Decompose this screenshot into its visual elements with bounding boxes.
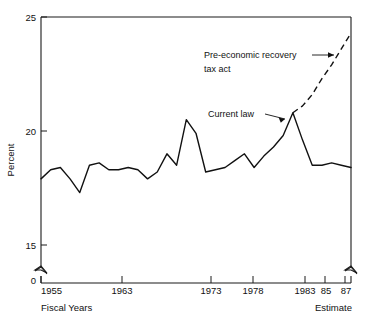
- y-axis-zero-label: 0: [31, 275, 36, 286]
- annotation-pre-act-line2: tax act: [204, 64, 231, 74]
- annotation-current-law: Current law: [208, 109, 285, 123]
- series-pre-economic-recovery-tax-act: [293, 33, 351, 113]
- line-chart-figure: 25 20 15 0 Percent 1955 1963 1973 1978 1…: [0, 0, 372, 322]
- x-tick-label-87: 87: [341, 285, 352, 296]
- series-current-law: [41, 113, 351, 193]
- annotation-pre-act-line1: Pre-economic recovery: [204, 50, 297, 60]
- y-axis-ticks: [41, 17, 47, 245]
- annotation-pre-act: Pre-economic recovery tax act: [204, 50, 334, 74]
- y-axis-title: Percent: [5, 143, 16, 176]
- chart-container: 25 20 15 0 Percent 1955 1963 1973 1978 1…: [0, 0, 372, 322]
- x-tick-label-1973: 1973: [200, 285, 221, 296]
- annotation-current-law-label: Current law: [208, 109, 255, 119]
- axis-break-left: [35, 266, 47, 274]
- plot-frame: [41, 17, 351, 268]
- annotation-pre-act-arrowhead: [328, 52, 334, 58]
- x-tick-label-1978: 1978: [242, 285, 263, 296]
- y-tick-label-25: 25: [25, 12, 36, 23]
- estimate-caption: Estimate: [315, 302, 352, 313]
- x-tick-label-1983: 1983: [294, 285, 315, 296]
- x-axis-ticks: [41, 276, 345, 283]
- axis-break-right: [345, 266, 357, 274]
- x-tick-label-1955: 1955: [41, 285, 62, 296]
- y-tick-label-20: 20: [25, 126, 36, 137]
- y-tick-label-15: 15: [25, 240, 36, 251]
- x-tick-label-1963: 1963: [111, 285, 132, 296]
- x-tick-label-85: 85: [321, 285, 332, 296]
- x-axis-title: Fiscal Years: [41, 302, 92, 313]
